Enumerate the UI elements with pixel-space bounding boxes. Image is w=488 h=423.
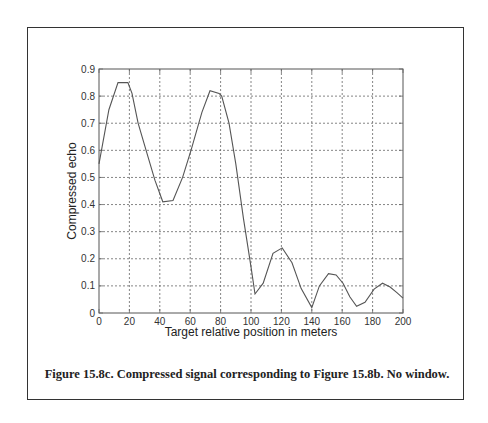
axis-ticks: 02040608010012014016018020000.10.20.30.4…	[81, 64, 412, 328]
y-tick-label: 0.6	[81, 145, 95, 156]
x-tick-label: 0	[96, 316, 102, 327]
y-tick-label: 0.4	[81, 199, 95, 210]
y-tick-label: 0.8	[81, 91, 95, 102]
y-tick-label: 0.2	[81, 253, 95, 264]
grid-lines	[99, 69, 403, 313]
y-tick-label: 0.7	[81, 118, 95, 129]
x-tick-label: 180	[364, 316, 381, 327]
y-tick-label: 0.9	[81, 64, 95, 75]
x-tick-label: 200	[395, 316, 412, 327]
x-axis-label: Target relative position in meters	[165, 325, 338, 339]
x-tick-label: 20	[124, 316, 136, 327]
y-axis-label: Compressed echo	[65, 142, 79, 240]
figure-caption: Figure 15.8c. Compressed signal correspo…	[27, 367, 467, 382]
y-tick-label: 0.3	[81, 226, 95, 237]
y-tick-label: 0.5	[81, 172, 95, 183]
y-tick-label: 0	[89, 308, 95, 319]
y-tick-label: 0.1	[81, 280, 95, 291]
line-chart: 02040608010012014016018020000.10.20.30.4…	[0, 0, 488, 423]
